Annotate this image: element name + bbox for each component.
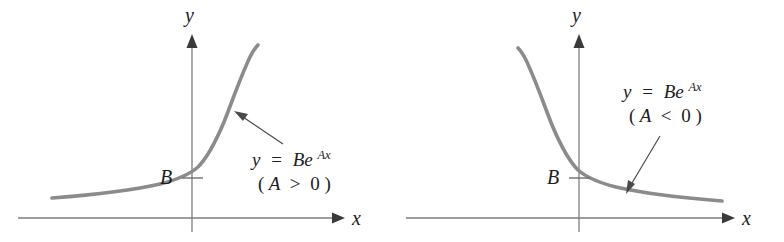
condition-value-growth: 0 — [310, 173, 320, 194]
annotation-leader-growth — [234, 111, 283, 144]
annotation-leader-decay — [626, 136, 660, 194]
condition-close-growth: ) — [324, 173, 330, 195]
equation-lhs-growth: y — [250, 149, 261, 170]
y-axis-growth — [187, 34, 198, 232]
x-axis-label-decay: x — [741, 207, 751, 229]
equation-equals-growth: = — [271, 149, 282, 170]
y-axis-label-decay: y — [570, 4, 581, 27]
condition-relation-growth: > — [290, 173, 301, 194]
intercept-label-growth: B — [160, 166, 172, 188]
equation-base-decay: Be — [664, 81, 684, 102]
growth-curve — [52, 45, 258, 198]
y-axis-label-growth: y — [183, 4, 194, 27]
condition-value-decay: 0 — [681, 105, 691, 126]
condition-close-decay: ) — [695, 105, 701, 127]
equation-label-decay: y = Be Ax — [621, 80, 702, 102]
panel-decay: x y B y = Be Ax ( A < 0 ) — [392, 0, 784, 242]
condition-relation-decay: < — [661, 105, 672, 126]
equation-exponent-growth: Ax — [316, 148, 331, 162]
condition-open-growth: ( — [258, 173, 264, 195]
x-axis-decay — [406, 213, 735, 224]
equation-base-growth: Be — [293, 149, 313, 170]
x-axis-label-growth: x — [351, 207, 361, 229]
condition-label-growth: ( A > 0 ) — [258, 173, 331, 195]
condition-label-decay: ( A < 0 ) — [629, 105, 702, 127]
panel-growth: x y B y = Be Ax ( A > 0 ) — [0, 0, 392, 242]
y-axis-decay — [574, 34, 585, 232]
condition-variable-growth: A — [267, 173, 281, 194]
equation-equals-decay: = — [642, 81, 653, 102]
equation-label-growth: y = Be Ax — [250, 148, 331, 170]
equation-lhs-decay: y — [621, 81, 632, 102]
equation-exponent-decay: Ax — [687, 80, 702, 94]
intercept-label-decay: B — [547, 166, 559, 188]
x-axis-growth — [18, 213, 345, 224]
condition-open-decay: ( — [629, 105, 635, 127]
condition-variable-decay: A — [638, 105, 652, 126]
exponential-curves-figure: x y B y = Be Ax ( A > 0 ) — [0, 0, 784, 242]
